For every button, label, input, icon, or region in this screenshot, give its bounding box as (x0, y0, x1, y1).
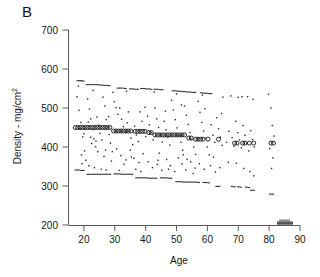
band-dash (193, 182, 196, 183)
data-point-dot (111, 160, 112, 161)
data-point-dot (170, 165, 171, 166)
data-point-dot (173, 109, 174, 110)
y-tick-label: 700 (41, 25, 58, 36)
data-point-dot (119, 107, 120, 108)
data-point-dot (183, 154, 184, 155)
band-dash (131, 88, 134, 89)
band-dash (179, 91, 182, 92)
band-dash (77, 169, 80, 170)
data-point-dot (135, 169, 136, 170)
data-point-dot (243, 125, 244, 126)
data-point-dot (181, 104, 182, 105)
band-dash (129, 88, 132, 89)
data-point-circle (252, 141, 256, 145)
data-point-dot (109, 134, 110, 135)
band-dash (94, 174, 97, 175)
data-point-dot (89, 108, 90, 109)
data-point-dot (80, 122, 81, 123)
band-dash (101, 174, 104, 175)
data-point-dot (131, 156, 132, 157)
data-point-dot (128, 111, 129, 112)
data-point-dot (252, 99, 253, 100)
data-point-dot (165, 129, 166, 130)
data-point-dot (221, 113, 222, 114)
data-point-dot (80, 128, 81, 129)
data-point-dot (95, 146, 96, 147)
data-point-dot (191, 139, 192, 140)
data-point-dot (186, 159, 187, 160)
data-point-dot (138, 162, 139, 163)
data-point-dot (133, 158, 134, 159)
data-point-dot (138, 141, 139, 142)
band-dash (116, 173, 119, 174)
data-points-layer (73, 80, 275, 195)
band-dash (170, 178, 173, 179)
band-dash (247, 187, 250, 188)
data-point-dot (165, 110, 166, 111)
data-point-dot (92, 90, 93, 91)
data-point-dot (213, 156, 214, 157)
data-point-dot (118, 170, 119, 171)
data-point-dot (250, 130, 251, 131)
data-point-dot (202, 94, 203, 95)
data-point-dot (171, 100, 172, 101)
band-dash (75, 169, 78, 170)
data-point-dot (237, 132, 238, 133)
data-point-dot (126, 91, 127, 92)
band-dash (161, 89, 164, 90)
data-point-dot (241, 96, 242, 97)
band-dash (174, 90, 177, 91)
data-point-dot (235, 121, 236, 122)
band-dash (190, 182, 193, 183)
band-dash (96, 174, 99, 175)
band-dash (159, 89, 162, 90)
band-dash (88, 84, 91, 85)
band-dash (154, 89, 157, 90)
data-point-dot (252, 139, 253, 140)
data-point-dot (248, 150, 249, 151)
data-point-dot (117, 114, 118, 115)
band-dash (200, 92, 203, 93)
data-point-dot (201, 122, 202, 123)
data-point-dot (249, 171, 250, 172)
data-point-dot (84, 150, 85, 151)
data-point-dot (88, 121, 89, 122)
data-point-dot (226, 142, 227, 143)
data-point-dot (185, 169, 186, 170)
data-point-dot (105, 169, 106, 170)
data-point-dot (139, 111, 140, 112)
data-point-dot (126, 122, 127, 123)
data-point-dot (101, 169, 102, 170)
data-point-dot (128, 130, 129, 131)
data-point-dot (204, 169, 205, 170)
data-point-dot (107, 127, 108, 128)
band-dash (184, 91, 187, 92)
band-dash (82, 170, 85, 171)
band-dash (178, 181, 181, 182)
data-point-dot (216, 117, 217, 118)
data-point-dot (194, 167, 195, 168)
x-tick-label: 60 (202, 234, 214, 245)
band-dash (180, 181, 183, 182)
data-point-circle (206, 137, 210, 141)
band-dash (145, 177, 148, 178)
data-point-dot (112, 92, 113, 93)
band-dash (150, 89, 153, 90)
data-point-dot (243, 168, 244, 169)
data-point-dot (186, 115, 187, 116)
band-dash (104, 174, 107, 175)
data-point-dot (222, 145, 223, 146)
data-point-dot (149, 124, 150, 125)
band-dash (202, 93, 205, 94)
data-point-dot (195, 154, 196, 155)
band-dash (167, 178, 170, 179)
band-dash (194, 92, 197, 93)
band-dash (136, 89, 139, 90)
data-point-dot (142, 153, 143, 154)
data-point-dot (151, 132, 152, 133)
data-point-dot (193, 146, 194, 147)
y-axis-ticks: 200300400500600700 (41, 25, 68, 231)
band-dash (121, 174, 124, 175)
band-dash (207, 93, 210, 94)
band-dash (155, 178, 158, 179)
